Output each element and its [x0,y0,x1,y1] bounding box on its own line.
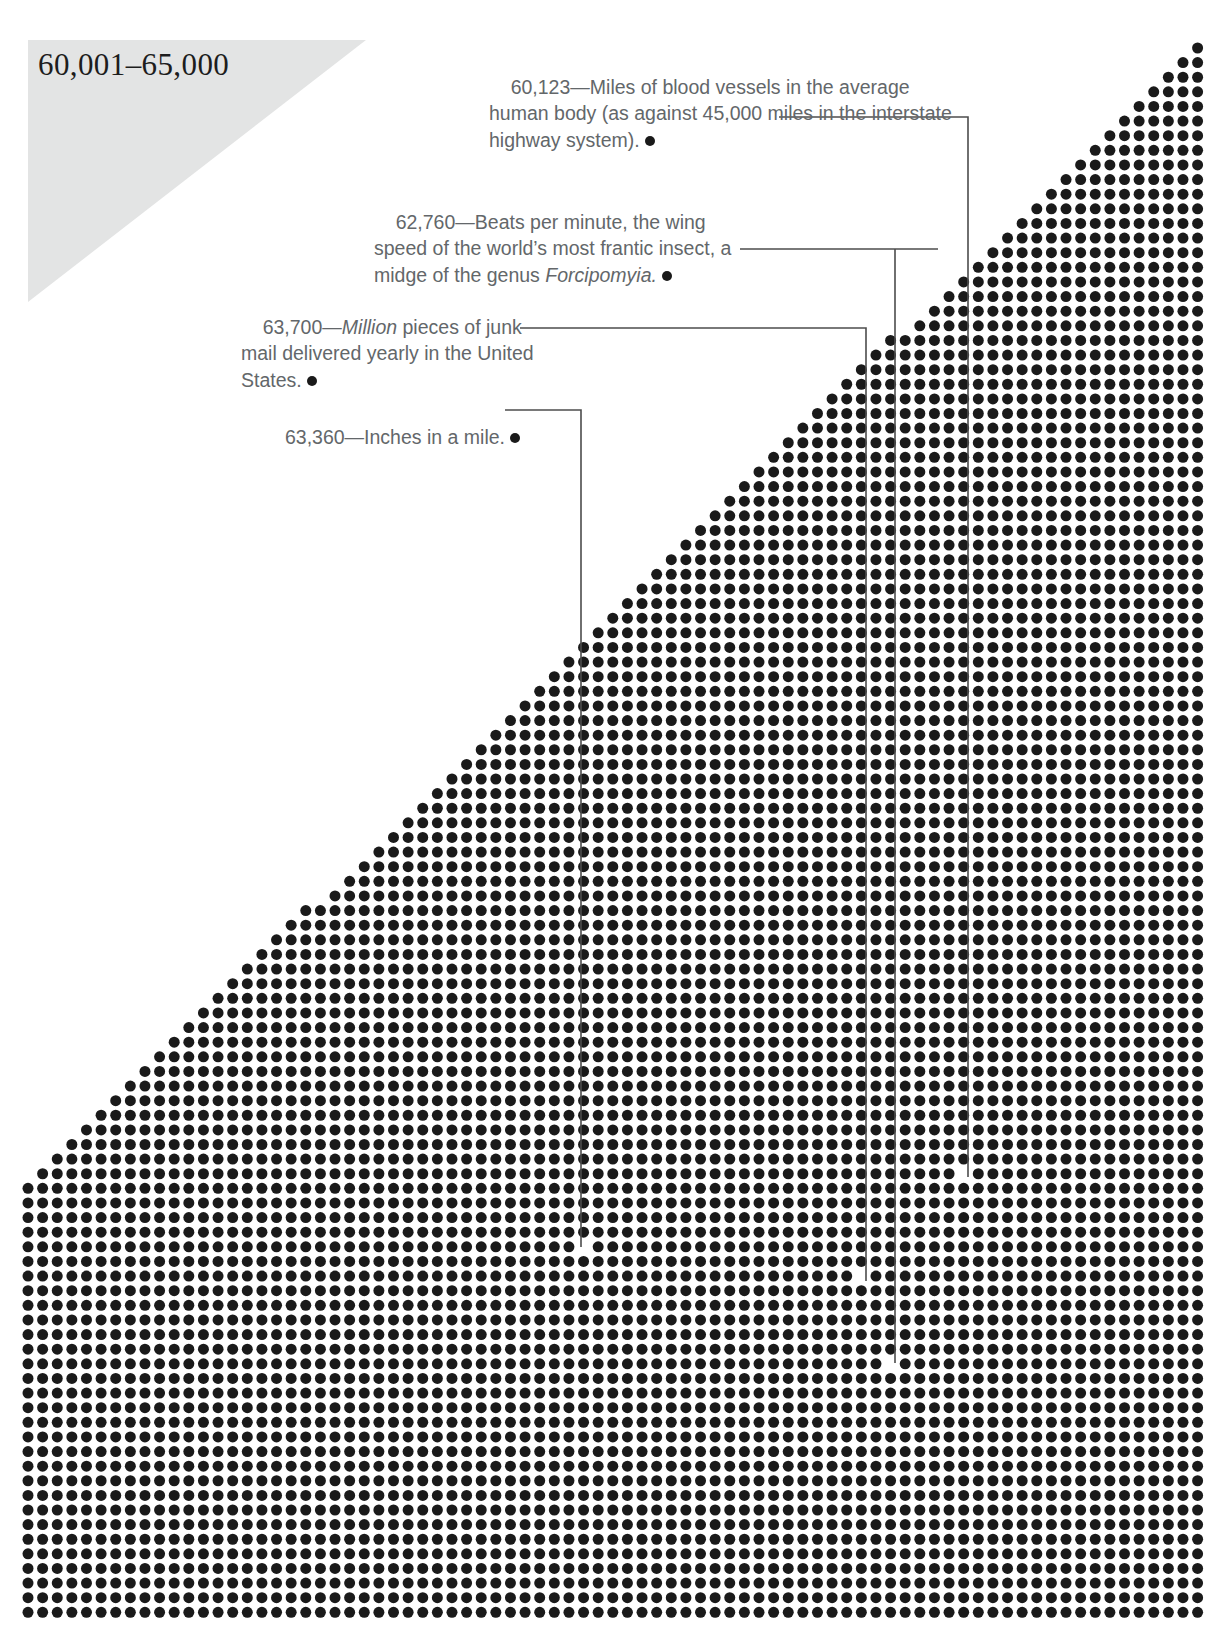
annotation-number: 63,700 [263,316,323,338]
annotation-number: 62,760 [396,211,456,233]
page-title: 60,001–65,000 [38,47,229,83]
annotation-blood-vessels: 60,123—Miles of blood vessels in the ave… [489,47,964,180]
annotation-number: 63,360 [285,426,345,448]
annotation-number: 60,123 [511,76,571,98]
annotation-marker-dot [510,433,520,443]
annotation-marker-dot [307,376,317,386]
annotation-inches-in-a-mile: 63,360—Inches in a mile. [235,397,520,477]
annotation-text-before: Inches in a mile. [364,426,505,448]
infographic-page: 60,001–65,000 60,123—Miles of blood vess… [0,0,1221,1635]
annotation-marker-dot [662,271,672,281]
annotation-italic: Million [342,316,397,338]
annotation-dash: — [455,211,475,233]
annotation-marker-dot [645,136,655,146]
annotation-dash: — [345,426,365,448]
annotation-dash: — [322,316,342,338]
annotation-dash: — [570,76,590,98]
annotation-italic: Forcipomyia. [545,264,657,286]
